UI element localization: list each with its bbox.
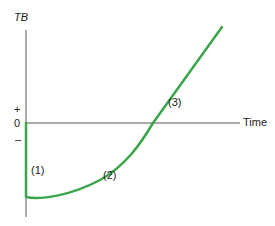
tb-curve	[26, 27, 222, 198]
segment-2-label: (2)	[103, 170, 116, 181]
y-axis-label: TB	[14, 12, 28, 23]
segment-3-label: (3)	[168, 97, 181, 108]
segment-1-label: (1)	[31, 165, 44, 176]
x-axis-label: Time	[243, 117, 267, 128]
minus-tick: –	[15, 134, 21, 145]
zero-tick: 0	[14, 118, 20, 129]
chart-canvas	[0, 0, 275, 226]
plus-tick: +	[14, 104, 20, 115]
